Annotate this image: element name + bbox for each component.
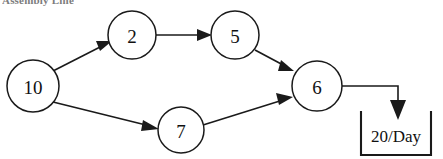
assembly-line-flow-diagram: 10 2 5 6 7 20/Day — [0, 0, 443, 159]
output-rate-label: 20/Day — [371, 127, 422, 146]
node-6-label: 6 — [312, 77, 322, 98]
node-5-label: 5 — [230, 26, 240, 47]
node-7-label: 7 — [176, 121, 186, 142]
diagram-canvas: Assembly Line 1 — [0, 0, 443, 159]
edge-node7-to-node6 — [203, 93, 293, 125]
node-2-label: 2 — [127, 26, 137, 47]
edge-node10-to-node7 — [53, 102, 159, 131]
node-5[interactable]: 5 — [211, 11, 259, 59]
output-flow-arrow — [342, 86, 406, 120]
node-2[interactable]: 2 — [108, 11, 156, 59]
edge-node10-to-node2 — [53, 41, 112, 71]
node-6[interactable]: 6 — [292, 61, 342, 111]
node-7[interactable]: 7 — [158, 107, 204, 153]
edge-node5-to-node6 — [255, 50, 294, 71]
edge-node2-to-node5 — [156, 29, 212, 41]
node-10[interactable]: 10 — [7, 60, 59, 112]
node-10-label: 10 — [24, 77, 43, 98]
